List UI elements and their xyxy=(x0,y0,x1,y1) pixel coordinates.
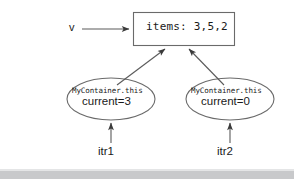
ellipse2-type-label: MyContainer.this xyxy=(191,86,262,95)
v-pointer-label: v xyxy=(69,21,75,33)
items-box-label: items: 3,5,2 xyxy=(146,20,228,33)
ellipse1-type-label: MyContainer.this xyxy=(72,86,143,95)
ellipse2-to-box-arrow xyxy=(189,49,224,85)
ellipse1-to-box-arrow xyxy=(117,49,165,85)
itr2-label: itr2 xyxy=(217,145,233,157)
ellipse2-field-label: current=0 xyxy=(201,95,250,107)
ellipse1-field-label: current=3 xyxy=(82,95,131,107)
page-bottom-band xyxy=(0,171,294,179)
diagram-canvas: items: 3,5,2 v MyContainer.this current=… xyxy=(0,0,294,179)
itr1-label: itr1 xyxy=(98,145,114,157)
